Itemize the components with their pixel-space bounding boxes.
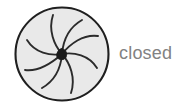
iris-state-label: closed [119, 43, 172, 63]
iris-hub [57, 49, 67, 60]
iris-diaphragm-figure: closed [0, 0, 190, 108]
